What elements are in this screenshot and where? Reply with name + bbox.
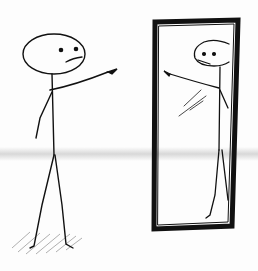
head <box>23 34 85 74</box>
reflection-figure <box>164 40 229 218</box>
floor-shadow <box>12 232 82 254</box>
standing-mirror <box>154 20 238 229</box>
mirror-illustration <box>0 0 258 271</box>
illustration-canvas <box>0 0 258 271</box>
stick-figure <box>23 34 117 248</box>
